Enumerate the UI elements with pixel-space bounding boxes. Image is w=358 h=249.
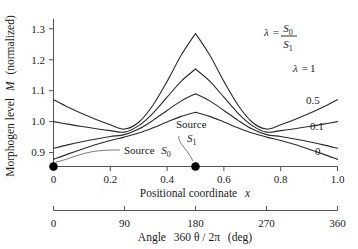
x-axis-angle: 090180270360 (51, 206, 347, 229)
curve-label-lambda-1: λ=1 (292, 62, 315, 74)
source-s0-label: Source S0 (124, 144, 171, 159)
x-tick-label: 0.6 (217, 173, 231, 185)
curve-label-lambda-0: 0 (315, 145, 321, 157)
y-axis-title-var: M (4, 80, 16, 92)
y-tick-label: 1.1 (31, 84, 45, 96)
x-tick2-label: 0 (51, 217, 57, 229)
x-axis2-title-expr: 360 θ / 2π (174, 231, 220, 243)
y-axis-title-main: Morphogen level (4, 98, 17, 177)
lambda-symbol: λ (263, 26, 269, 38)
source-s0-marker (49, 162, 58, 171)
y-axis-title: Morphogen level M (normalized) (4, 15, 17, 177)
x-tick-label: 0.8 (274, 173, 288, 185)
y-axis-ticks (49, 29, 54, 153)
source-s1-marker (191, 162, 200, 171)
legend-lambda-definition: λ = S0 S1 (263, 22, 297, 53)
y-tick-label: 1.2 (31, 54, 45, 66)
x-tick2-label: 360 (329, 217, 346, 229)
x-axis2-title-main: Angle (138, 231, 166, 244)
chart-svg: 0.91.01.11.21.3 Morphogen level M (norma… (0, 0, 358, 249)
source-s0-leader (56, 150, 120, 162)
curve-series-0 (54, 33, 338, 129)
lambda-denominator: S1 (283, 38, 293, 53)
y-axis-title-unit: (normalized) (4, 15, 17, 75)
x-axis-title-var: x (244, 187, 251, 199)
curve-label-lambda-01: 0.1 (310, 120, 324, 132)
x-tick2-label: 270 (258, 217, 275, 229)
lambda-numerator: S0 (283, 22, 293, 37)
x-tick-label: 0 (51, 173, 57, 185)
svg-text:Morphogen level M: Morphogen level M (normalized) (4, 15, 17, 177)
source-s0-annotation: Source S0 (56, 144, 171, 162)
x-axis2-title: Angle 360 θ / 2π (deg) (138, 231, 252, 244)
x-axis-tick-labels: 00.20.40.60.81.0 (51, 173, 345, 185)
x-tick2-label: 90 (119, 217, 131, 229)
curve-label-lambda-05: 0.5 (306, 94, 320, 106)
x-tick-label: 1.0 (331, 173, 345, 185)
source-s1-annotation: Source S1 (176, 118, 207, 161)
lambda-equals: = (273, 26, 279, 38)
x-tick-label: 0.2 (103, 173, 117, 185)
x-axis2-title-unit: (deg) (228, 231, 252, 244)
x-tick-label: 0.4 (160, 173, 174, 185)
y-tick-label: 1.0 (31, 115, 45, 127)
y-tick-label: 1.3 (31, 23, 45, 35)
x-axis-title-main: Positional coordinate (140, 187, 237, 199)
source-s1-label-sym: S1 (187, 132, 197, 147)
x-axis2-ticks (54, 206, 338, 211)
chart-figure: 0.91.01.11.21.3 Morphogen level M (norma… (0, 0, 358, 249)
y-axis-tick-labels: 0.91.01.11.21.3 (31, 23, 45, 159)
y-axis: 0.91.01.11.21.3 (31, 19, 53, 166)
x-axis-title: Positional coordinate x (140, 187, 251, 199)
x-tick2-label: 180 (187, 217, 204, 229)
y-tick-label: 0.9 (31, 146, 45, 158)
source-s1-label-word: Source (176, 118, 207, 130)
x-axis2-tick-labels: 090180270360 (51, 217, 347, 229)
